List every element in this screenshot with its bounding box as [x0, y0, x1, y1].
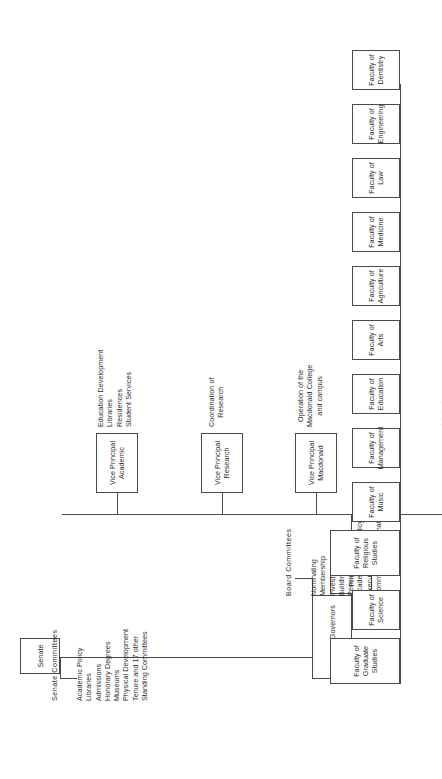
- node-faculty-label: Faculty of Graduate Studies: [352, 645, 379, 677]
- node-faculty-label: Faculty of Engineering: [367, 105, 385, 144]
- node-faculty[interactable]: Faculty of Management: [352, 428, 400, 468]
- senate-committees-list: Academic PolicyLibrariesAdmissionsHonora…: [75, 629, 149, 701]
- vp-academic-unit-item: Libraries: [105, 350, 114, 427]
- node-faculty-label: Faculty of Agriculture: [367, 269, 385, 304]
- board-committees-heading: Board Committees: [284, 528, 293, 596]
- node-faculty[interactable]: Faculty of Music: [352, 482, 400, 522]
- node-faculty-label: Faculty of Science: [367, 594, 385, 626]
- node-faculty-label: Faculty of Law: [367, 162, 385, 194]
- node-faculty-label: Faculty of Education: [367, 378, 385, 410]
- node-faculty-label: Faculty of Medicine: [367, 216, 385, 248]
- node-faculty[interactable]: Faculty of Engineering: [352, 104, 400, 144]
- node-faculty[interactable]: Faculty of Graduate Studies: [330, 638, 400, 684]
- vp-macdonald-unit-item: Operation of the: [296, 365, 305, 427]
- node-faculty[interactable]: Faculty of Medicine: [352, 212, 400, 252]
- node-faculty[interactable]: Faculty of Arts: [352, 320, 400, 360]
- board-committee-item: Nominating: [309, 501, 318, 596]
- node-faculty[interactable]: Faculty of Science: [352, 590, 400, 630]
- node-faculty-label: Faculty of Music: [367, 486, 385, 518]
- node-vp-macdonald[interactable]: Vice Principal Macdonald: [295, 433, 337, 493]
- node-faculty-label: Faculty of Dentistry: [367, 54, 385, 86]
- node-vp-academic[interactable]: Vice Principal Academic: [96, 433, 138, 493]
- connector-faculty-bus-top: [400, 84, 401, 684]
- senate-committees-heading: Senate Committees: [50, 629, 59, 701]
- node-faculty[interactable]: Faculty of Dentistry: [352, 50, 400, 90]
- senate-committee-item: Libraries: [84, 629, 93, 701]
- node-vp-research[interactable]: Vice Principal Research: [201, 433, 243, 493]
- vp-macdonald-unit-item: Macdonald College: [305, 365, 314, 427]
- node-vp-academic-label: Vice Principal Academic: [108, 441, 126, 485]
- senate-committee-item: Admissions: [94, 629, 103, 701]
- vp-academic-unit-item: Education Development: [96, 350, 105, 427]
- vp-research-units-list: Coordination ofResearch: [207, 378, 226, 428]
- senate-committee-item: Museums: [112, 629, 121, 701]
- org-chart-canvas: Senate Board of Governors Principal Dire…: [0, 0, 442, 779]
- node-faculty[interactable]: Faculty of Education: [352, 374, 400, 414]
- vp-research-unit-item: Coordination of: [207, 378, 216, 428]
- connector-senate-committee-stub: [60, 657, 61, 679]
- senate-committee-item: Physical Development: [121, 629, 130, 701]
- vp-research-unit-item: Research: [216, 378, 225, 428]
- vp-macdonald-unit-item: and campus: [315, 365, 324, 427]
- connector-vp-research: [222, 493, 223, 515]
- node-faculty-label: Faculty of Religious Studies: [352, 537, 379, 569]
- node-senate-label: Senate: [36, 644, 45, 667]
- vp-macdonald-units-list: Operation of theMacdonald Collegeand cam…: [296, 365, 324, 427]
- node-vp-macdonald-label: Vice Principal Macdonald: [307, 441, 325, 485]
- node-faculty[interactable]: Faculty of Religious Studies: [330, 530, 400, 576]
- node-faculty-label: Faculty of Arts: [367, 324, 385, 356]
- connector-vp-academic: [117, 493, 118, 515]
- board-committee-item: Membership: [318, 501, 327, 596]
- vp-academic-unit-item: Residences: [115, 350, 124, 427]
- senate-committee-item: Honorary Degrees: [103, 629, 112, 701]
- vp-academic-units-list: Education DevelopmentLibrariesResidences…: [96, 350, 133, 427]
- senate-committee-item: Tenure and 17 other: [131, 629, 140, 701]
- node-faculty[interactable]: Faculty of Law: [352, 158, 400, 198]
- vp-academic-unit-item: Student Services: [124, 350, 133, 427]
- node-faculty-label: Faculty of Management: [367, 427, 385, 469]
- senate-committee-item: Academic Policy: [75, 629, 84, 701]
- node-faculty[interactable]: Faculty of Agriculture: [352, 266, 400, 306]
- node-vp-research-label: Vice Principal Research: [213, 441, 231, 485]
- senate-committee-item: Standing Committees: [140, 629, 149, 701]
